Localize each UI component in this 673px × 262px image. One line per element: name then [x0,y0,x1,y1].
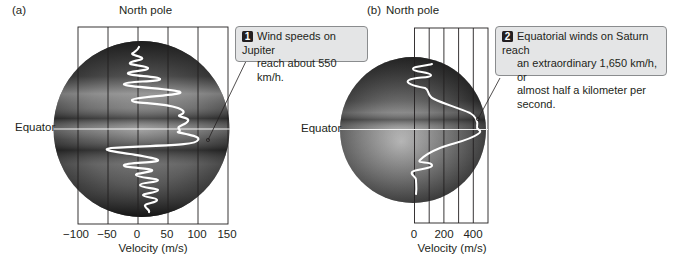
panel-a-north-pole-label: North pole [119,4,172,16]
jupiter-panel [53,27,249,224]
panel-b-x-axis-label: Velocity (m/s) [417,242,486,254]
callout-2-number-badge: 2 [502,31,513,42]
panel-b-equator-label: Equator [301,122,341,134]
panel-a-tick: −50 [97,228,117,240]
callout-1-line1: Wind speeds on Jupiter [242,30,336,56]
callout-2-line3: almost half a kilometer per second. [502,84,660,111]
panel-a-equator-label: Equator [15,121,55,133]
panel-b-label: (b) [367,4,381,16]
callout-2-line1: Equatorial winds on Saturn reach [502,30,648,56]
callout-2: 2Equatorial winds on Saturn reach an ext… [495,26,667,76]
panel-a-tick: 50 [161,228,174,240]
callout-1-line2: reach about 550 km/h. [242,57,361,84]
callout-1-number-badge: 1 [242,31,253,42]
panel-b-tick: 0 [411,228,417,240]
callout-1: 1Wind speeds on Jupiter reach about 550 … [235,26,368,62]
panel-b-tick: 400 [463,228,482,240]
panel-a-tick: 150 [217,228,236,240]
panel-a-tick: −100 [63,228,89,240]
panel-b-north-pole-label: North pole [386,4,439,16]
panel-a-tick: 100 [187,228,206,240]
callout-2-leader [478,78,500,119]
panel-a-label: (a) [12,4,26,16]
panel-a-tick: 0 [134,228,140,240]
panel-b-tick: 200 [434,228,453,240]
panel-a-x-axis-label: Velocity (m/s) [118,242,187,254]
callout-2-line2: an extraordinary 1,650 km/h, or [502,57,660,84]
